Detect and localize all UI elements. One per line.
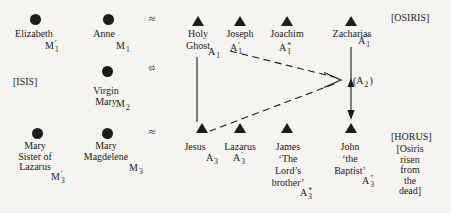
female-symbol-anne [103, 14, 114, 25]
code-label-M3: M 3 [129, 161, 144, 176]
person-name-elizabeth: Elizabeth [2, 28, 66, 40]
approx-equals-bottom: ≈ [144, 126, 160, 138]
male-symbol-zacharias [345, 16, 357, 26]
code-label-M1-prime: M ′1 [45, 39, 60, 54]
side-label-isis: [ISIS] [13, 76, 37, 87]
down-arrowhead [347, 110, 354, 120]
code-label-A2: ( A 2 ) [353, 74, 373, 89]
code-label-A1-star: A *1 [279, 41, 292, 56]
female-symbol-mary-magdelene [102, 128, 113, 139]
male-symbol-holy-ghost [192, 16, 204, 26]
kinship-diagram: Elizabeth Anne Holy Ghost Joseph Joachim… [0, 0, 451, 213]
person-name-joachim: Joachim [255, 28, 319, 40]
male-symbol-james [281, 123, 293, 133]
person-name-mary-magdelene: Mary Magdelene [74, 141, 138, 162]
person-name-john: John ‘the Baptist’ [318, 141, 382, 177]
side-label-osiris-risen: [Osiris risen from the dead] [386, 144, 434, 197]
approx-equals-middle: ≈ [142, 59, 161, 76]
right-arrowhead [324, 73, 341, 88]
code-label-A3-double-prime: A ″3 [362, 174, 375, 189]
person-name-james: James ‘The Lord’s brother’ [256, 141, 320, 189]
code-label-A1-double-prime: A ″1 [358, 34, 371, 49]
dashed-line-jesus-a2 [210, 84, 334, 131]
female-symbol-virgin-mary [102, 66, 113, 77]
male-symbol-joachim [281, 16, 293, 26]
code-label-M2: M 2 [116, 97, 131, 112]
person-name-zacharias: Zacharias [320, 28, 384, 40]
side-label-horus: [HORUS] [391, 131, 432, 142]
person-name-anne: Anne [72, 28, 136, 40]
side-label-osiris: [OSIRIS] [391, 12, 429, 23]
male-symbol-joseph [234, 16, 246, 26]
male-symbol-john [345, 123, 357, 133]
code-label-A1: A 1 [208, 45, 221, 60]
code-label-M1: M 1 [116, 39, 131, 54]
code-label-A3-prime: A ′3 [233, 151, 246, 166]
approx-equals-top: ≈ [144, 13, 160, 25]
female-symbol-mary-sister [32, 128, 43, 139]
male-symbol-jesus [196, 123, 208, 133]
code-label-A3: A 3 [206, 151, 219, 166]
code-label-A1-prime: A ′1 [230, 41, 243, 56]
code-label-A3-star: A *3 [300, 186, 313, 201]
person-name-mary-sister: Mary Sister of Lazarus [3, 141, 67, 173]
female-symbol-elizabeth [30, 14, 41, 25]
code-label-M3-prime: M ′3 [51, 170, 66, 185]
male-symbol-lazarus [234, 123, 246, 133]
